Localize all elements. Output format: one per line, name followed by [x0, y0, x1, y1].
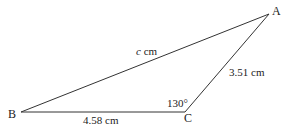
- side-label-ab-unit: cm: [141, 45, 158, 57]
- vertex-label-b: B: [8, 107, 16, 121]
- triangle-canvas: A B C c cm 4.58 cm 3.51 cm 130°: [0, 0, 289, 136]
- triangle-abc: [21, 14, 269, 112]
- vertex-label-a: A: [272, 4, 281, 18]
- side-label-ca: 3.51 cm: [229, 66, 265, 78]
- triangle-diagram: A B C c cm 4.58 cm 3.51 cm 130°: [0, 0, 289, 136]
- angle-label-c: 130°: [167, 97, 188, 109]
- side-label-bc: 4.58 cm: [83, 114, 119, 126]
- side-label-ab: c cm: [136, 45, 158, 57]
- vertex-label-c: C: [184, 111, 192, 125]
